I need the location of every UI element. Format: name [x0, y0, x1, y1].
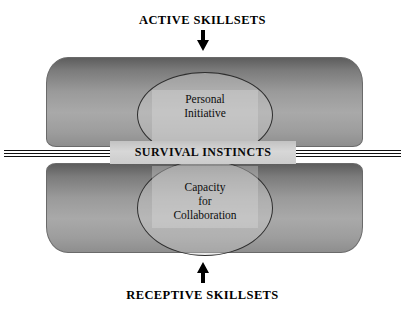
- shaft-line: [283, 150, 401, 151]
- shaft-line: [4, 150, 122, 151]
- diagram-canvas: ACTIVE SKILLSETS Personal Initiative Cap…: [0, 0, 405, 309]
- active-skillsets-label: ACTIVE SKILLSETS: [0, 13, 405, 28]
- shaft-line: [283, 156, 401, 157]
- capacity-line-2: for: [137, 194, 273, 208]
- personal-initiative-text: Personal Initiative: [137, 92, 273, 120]
- personal-initiative-line-2: Initiative: [137, 106, 273, 120]
- left-shaft: [4, 150, 122, 157]
- capacity-collaboration-text: Capacity for Collaboration: [137, 180, 273, 222]
- personal-initiative-line-1: Personal: [137, 92, 273, 106]
- down-arrow-icon: [196, 30, 210, 52]
- survival-instincts-label: SURVIVAL INSTINCTS: [110, 145, 296, 160]
- up-arrow-icon: [196, 261, 210, 283]
- shaft-line: [4, 156, 122, 157]
- capacity-line-1: Capacity: [137, 180, 273, 194]
- shaft-line: [283, 153, 401, 154]
- receptive-skillsets-label: RECEPTIVE SKILLSETS: [0, 288, 405, 303]
- capacity-line-3: Collaboration: [137, 208, 273, 222]
- shaft-line: [4, 153, 122, 154]
- right-shaft: [283, 150, 401, 157]
